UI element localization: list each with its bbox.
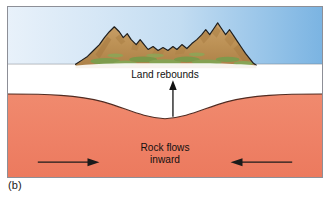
cross-section-scene: Land rebounds Rock flows inward: [8, 7, 322, 177]
diagram-frame: Land rebounds Rock flows inward: [7, 6, 323, 178]
label-rock-flows-line2: inward: [150, 154, 180, 165]
panel-caption: (b): [8, 180, 22, 191]
label-rock-flows-line1: Rock flows: [141, 142, 190, 153]
figure-root: Land rebounds Rock flows inward (b): [0, 0, 332, 200]
label-land-rebounds: Land rebounds: [131, 69, 199, 80]
